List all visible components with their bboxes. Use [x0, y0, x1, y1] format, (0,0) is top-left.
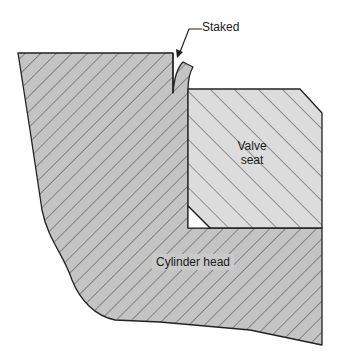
- staked-label: Staked: [202, 20, 239, 34]
- arrow-head-icon: [176, 49, 183, 58]
- valve-seat-label-line2: seat: [232, 153, 272, 167]
- cylinder-head-label: Cylinder head: [152, 254, 234, 270]
- staked-leader-line: [180, 29, 202, 52]
- valve-seat-label: Valve seat: [232, 139, 272, 167]
- valve-seat-label-line1: Valve: [232, 139, 272, 153]
- valve-seat-cross-section-diagram: [0, 0, 340, 360]
